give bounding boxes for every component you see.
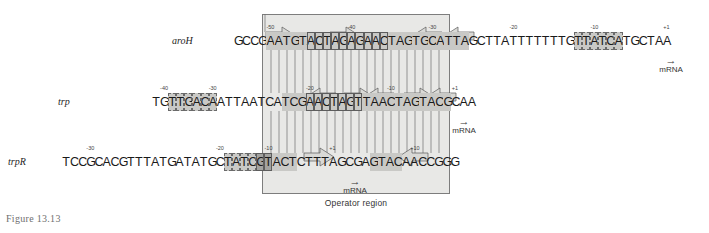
sequence-base: A xyxy=(655,32,663,50)
sequence-base: T xyxy=(517,32,525,50)
sequence-base: A xyxy=(396,32,404,50)
sequence-base: T xyxy=(323,32,331,50)
sequence-base: G xyxy=(404,32,412,50)
sequence-row-trp: TGTTGACAATTAATCATCGAACTAGTTAACTAGTACGCAA xyxy=(152,93,476,111)
sequence-base: C xyxy=(380,32,388,50)
sequence-base: A xyxy=(347,32,355,50)
sequence-base: G xyxy=(353,153,361,171)
sequence-base: A xyxy=(468,93,476,111)
sequence-base: T xyxy=(305,153,313,171)
sequence-base: T xyxy=(127,153,135,171)
sequence-base: T xyxy=(330,93,338,111)
sequence-base: T xyxy=(453,32,461,50)
sequence-base: A xyxy=(232,153,240,171)
sequence-base: T xyxy=(135,153,143,171)
sequence-base: G xyxy=(256,153,264,171)
sequence-row-trpR: TCCGCACGTTTATGATATGCTATCGTACTCTTTAGCGAGT… xyxy=(62,153,459,171)
mrna-label: mRNA xyxy=(648,64,694,75)
sequence-base: C xyxy=(435,93,443,111)
sequence-base: C xyxy=(639,32,647,50)
sequence-base: A xyxy=(364,32,372,50)
sequence-base: T xyxy=(200,153,208,171)
sequence-base: G xyxy=(451,153,459,171)
sequence-base: A xyxy=(175,153,183,171)
sequence-base: T xyxy=(62,153,70,171)
sequence-base: G xyxy=(411,93,419,111)
sequence-base: T xyxy=(574,32,582,50)
sequence-base: G xyxy=(339,32,347,50)
sequence-base: A xyxy=(274,32,282,50)
sequence-base: G xyxy=(442,153,450,171)
sequence-base: A xyxy=(273,93,281,111)
sequence-base: C xyxy=(281,153,289,171)
sequence-base: T xyxy=(419,93,427,111)
sequence-base: T xyxy=(168,93,176,111)
sequence-base: T xyxy=(224,153,232,171)
sequence-base: A xyxy=(314,93,322,111)
sequence-base: G xyxy=(370,153,378,171)
sequence-base: T xyxy=(240,153,248,171)
sequence-base: A xyxy=(372,32,380,50)
sequence-base: T xyxy=(362,93,370,111)
sequence-base: T xyxy=(388,32,396,50)
sequence-base: A xyxy=(331,32,339,50)
sequence-base: A xyxy=(427,93,435,111)
sequence-base: T xyxy=(582,32,590,50)
sequence-base: A xyxy=(386,153,394,171)
sequence-base: T xyxy=(485,32,493,50)
sequence-base: T xyxy=(233,93,241,111)
sequence-base: C xyxy=(78,153,86,171)
sequence-base: T xyxy=(225,93,233,111)
sequence-base: G xyxy=(355,32,363,50)
sequence-base: A xyxy=(436,32,444,50)
sequence-base: A xyxy=(614,32,622,50)
sequence-base: C xyxy=(290,93,298,111)
sequence-base: G xyxy=(631,32,639,50)
position-tick: -10 xyxy=(590,24,598,30)
sequence-base: G xyxy=(298,93,306,111)
sequence-base: T xyxy=(321,153,329,171)
figure-trp-operator-alignment: aroH trp trpR GCCGAATGTACTAGAGAACTAGTGCA… xyxy=(0,0,709,233)
sequence-base: C xyxy=(418,153,426,171)
sequence-base: T xyxy=(550,32,558,50)
sequence-base: C xyxy=(265,93,273,111)
sequence-base: G xyxy=(167,153,175,171)
sequence-base: T xyxy=(533,32,541,50)
sequence-base: T xyxy=(623,32,631,50)
sequence-base: A xyxy=(402,153,410,171)
sequence-base: G xyxy=(160,93,168,111)
sequence-base: A xyxy=(361,153,369,171)
sequence-base: A xyxy=(307,32,315,50)
sequence-base: T xyxy=(183,153,191,171)
sequence-base: A xyxy=(590,32,598,50)
position-tick: -20 xyxy=(509,24,517,30)
sequence-base: C xyxy=(428,32,436,50)
position-tick: +1 xyxy=(663,24,669,30)
operator-region-label: Operator region xyxy=(262,198,450,208)
sequence-base: C xyxy=(322,93,330,111)
sequence-base: G xyxy=(184,93,192,111)
sequence-base: G xyxy=(234,32,242,50)
gene-label-aroH: aroH xyxy=(172,35,193,46)
position-tick: -30 xyxy=(86,145,94,151)
sequence-base: G xyxy=(443,93,451,111)
sequence-base: T xyxy=(152,93,160,111)
sequence-base: T xyxy=(282,93,290,111)
mrna-marker-trp: → mRNA xyxy=(441,117,487,136)
sequence-base: A xyxy=(241,93,249,111)
sequence-base: T xyxy=(159,153,167,171)
sequence-base: A xyxy=(306,93,314,111)
sequence-base: C xyxy=(315,32,323,50)
mrna-label: mRNA xyxy=(441,125,487,136)
sequence-base: A xyxy=(266,32,274,50)
right-arrow-icon: → xyxy=(332,177,378,185)
sequence-base: C xyxy=(297,153,305,171)
right-arrow-icon: → xyxy=(648,56,694,64)
sequence-base: A xyxy=(410,153,418,171)
sequence-base: A xyxy=(461,32,469,50)
sequence-base: C xyxy=(477,32,485,50)
sequence-base: T xyxy=(395,93,403,111)
sequence-base: C xyxy=(345,153,353,171)
sequence-base: G xyxy=(119,153,127,171)
sequence-base: C xyxy=(248,153,256,171)
